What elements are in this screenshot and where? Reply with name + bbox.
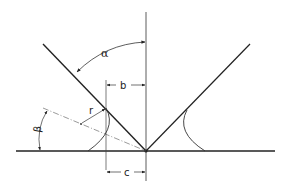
right-fillet-arc [184,110,205,151]
radius-leader [82,109,105,123]
alpha-label: α [101,47,109,60]
fillet-center [80,123,82,125]
center-line [43,108,146,151]
right-groove-flank [146,44,250,151]
groove-diagram: α b c r β [0,0,285,188]
c-label: c [124,167,130,178]
left-groove-flank [43,44,146,151]
beta-label: β [31,125,43,133]
radius-label: r [89,105,94,116]
b-label: b [120,80,126,91]
alpha-arc [77,42,145,72]
